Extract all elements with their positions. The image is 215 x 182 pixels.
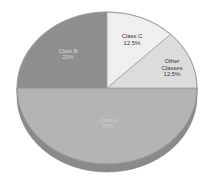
pie-chart-figure: Class A 50% Class B 25% Class C 12.5% Ot… [0,0,215,182]
pie-chart-svg [0,0,215,182]
pie-top-face [17,12,197,164]
slice-class-a[interactable] [17,88,197,164]
slice-class-b[interactable] [17,12,107,88]
